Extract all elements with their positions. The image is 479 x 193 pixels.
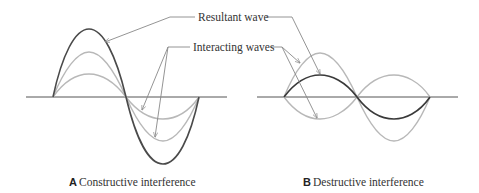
leader-interacting-a1 [142,47,190,110]
caption-a-letter: A [69,176,77,188]
leader-interacting-a2 [155,47,168,137]
caption-b: B Destructive interference [303,176,424,188]
caption-a-text: Constructive interference [79,176,196,188]
label-interacting-waves: Interacting waves [193,41,275,54]
caption-a: A Constructive interference [69,176,196,188]
panel-b-destructive [257,53,458,141]
caption-b-letter: B [303,176,311,188]
leader-interacting-b1 [270,47,300,63]
caption-b-text: Destructive interference [313,176,424,188]
leader-resultant-a [105,17,195,42]
interference-diagram: Resultant wave Interacting waves A Const… [0,0,479,193]
label-resultant-wave: Resultant wave [198,11,269,23]
